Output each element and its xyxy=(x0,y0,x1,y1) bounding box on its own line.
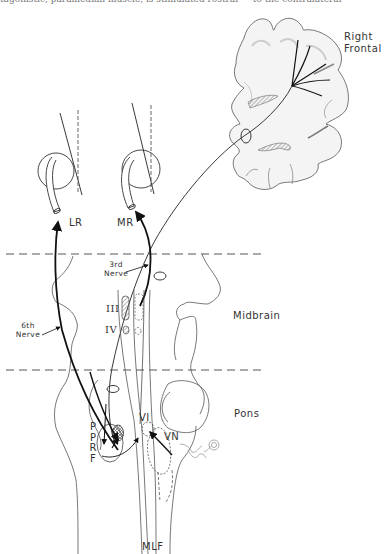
right-frontal-cortex xyxy=(230,18,349,189)
nucleus-VI-label: VI xyxy=(139,413,150,423)
left-eye xyxy=(38,110,82,214)
sixth-nerve-label-line2: Nerve xyxy=(16,330,40,339)
pons-label: Pons xyxy=(234,409,259,419)
nucleus-IV-label: IV xyxy=(105,325,117,335)
pprf-letter-r: R xyxy=(88,443,98,454)
medial-rectus-label: MR xyxy=(117,218,134,228)
third-nerve-label: 3rd Nerve xyxy=(104,261,128,278)
sixth-nerve-pathway xyxy=(55,222,118,450)
vestibular-nucleus-dashed-column xyxy=(158,470,173,502)
pprf-arrow-down xyxy=(104,404,106,444)
oculomotor-nucleus-III xyxy=(122,296,129,320)
third-nerve-pointer xyxy=(126,265,148,272)
mlf-ascending-line xyxy=(140,290,144,424)
mlf-label: MLF xyxy=(142,542,163,552)
trochlear-nucleus-IV xyxy=(123,326,129,334)
pprf-letter-p1: P xyxy=(88,422,98,433)
right-eye xyxy=(122,103,161,210)
midbrain-label: Midbrain xyxy=(233,311,280,321)
third-nerve-pathway xyxy=(136,212,151,306)
right-frontal-label-line1: Right xyxy=(344,32,373,42)
trochlear-nucleus-IV-contralateral xyxy=(135,328,141,335)
sixth-nerve-label: 6th Nerve xyxy=(15,322,41,339)
gaze-pathway-diagram xyxy=(0,0,384,554)
vestibular-nucleus-label: VN xyxy=(164,432,179,442)
decussation-marker-2 xyxy=(154,272,166,280)
oculomotor-nucleus-III-contralateral xyxy=(135,294,143,320)
lateral-rectus-label: LR xyxy=(69,218,83,228)
decussation-marker-3 xyxy=(107,386,119,393)
third-nerve-label-line2: Nerve xyxy=(104,269,128,278)
sixth-nerve-pointer xyxy=(42,327,60,335)
pprf-letter-f: F xyxy=(88,454,98,465)
pprf-label: P P R F xyxy=(88,422,98,464)
right-frontal-label-line2: Frontal xyxy=(344,44,382,54)
nucleus-III-label: III xyxy=(106,304,119,314)
brainstem-outline xyxy=(52,254,220,554)
